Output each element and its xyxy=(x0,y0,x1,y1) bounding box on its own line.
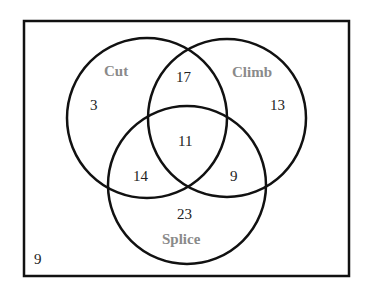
region-splice-only: 23 xyxy=(177,206,192,222)
set-label-splice: Splice xyxy=(162,231,201,247)
region-cut-climb: 17 xyxy=(176,69,192,85)
region-cut-splice: 14 xyxy=(133,168,149,184)
region-climb-splice: 9 xyxy=(230,168,238,184)
region-climb-only: 13 xyxy=(270,97,285,113)
venn-diagram: Cut Climb Splice 3 13 23 17 14 9 11 9 xyxy=(0,0,370,282)
region-none: 9 xyxy=(34,251,42,267)
set-label-cut: Cut xyxy=(104,63,128,79)
set-label-climb: Climb xyxy=(232,64,272,80)
region-all-three: 11 xyxy=(178,133,192,149)
region-cut-only: 3 xyxy=(90,97,98,113)
